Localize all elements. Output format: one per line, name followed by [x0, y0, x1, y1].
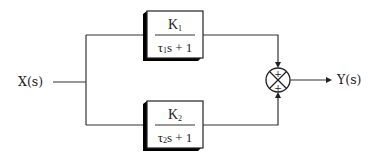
numerator-subscript: 2: [178, 114, 182, 123]
svg-text:τ1s + 1: τ1s + 1: [158, 40, 193, 55]
numerator: K: [168, 17, 178, 32]
top-path-to-sum: [203, 35, 278, 64]
denominator-rest: s + 1: [167, 40, 192, 55]
sum-sign-top: +: [274, 69, 282, 79]
summing-junction: + +: [266, 68, 290, 93]
svg-text:τ2s + 1: τ2s + 1: [158, 130, 193, 145]
sum-sign-bottom: +: [274, 83, 282, 93]
transfer-block-2: K2 τ2s + 1: [143, 101, 203, 151]
transfer-block-1: K1 τ1s + 1: [143, 11, 203, 61]
bottom-path-to-sum: [203, 96, 278, 125]
block-diagram: X(s) K1 τ1s + 1 K2 τ2s + 1: [0, 0, 381, 163]
numerator-subscript: 1: [178, 24, 182, 33]
arrowhead-right-icon: [326, 77, 332, 83]
input-label: X(s): [18, 74, 43, 89]
denominator-rest: s + 1: [167, 130, 192, 145]
output-label: Y(s): [336, 72, 361, 87]
numerator: K: [168, 107, 178, 122]
arrowhead-down-icon: [275, 62, 281, 68]
